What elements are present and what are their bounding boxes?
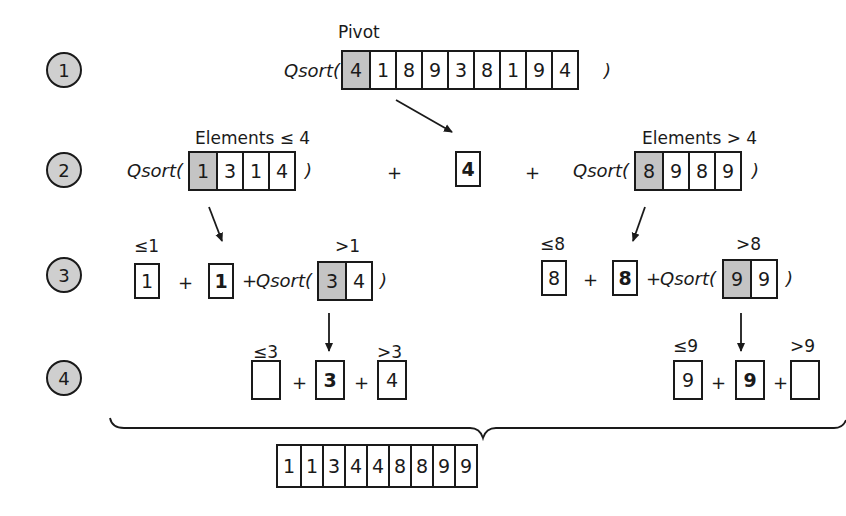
row1-array: 4 1 8 9 3 8 1 9 4 [341, 50, 579, 90]
elements-gt-label: Elements > 4 [642, 128, 757, 148]
row2-left-array: 1 3 1 4 [188, 151, 296, 191]
result-cell: 1 [278, 446, 300, 486]
sorted-result-array: 1 1 3 4 4 8 8 9 9 [276, 444, 478, 488]
close-paren: ) [786, 268, 793, 289]
array-cell: 8 [395, 52, 421, 88]
plus-sign: + [292, 372, 307, 393]
gt-box-empty [790, 360, 820, 400]
array-cell: 4 [345, 263, 371, 299]
result-cell: 1 [300, 446, 322, 486]
le-box-empty [251, 360, 281, 400]
plus-sign: + [583, 269, 598, 290]
qsort-call-label: Qsort( [284, 60, 340, 81]
arrow-row2-left-to-pivot [209, 207, 222, 241]
result-cell: 8 [388, 446, 410, 486]
array-cell: 4 [551, 52, 577, 88]
array-cell: 1 [242, 153, 268, 189]
qsort-call-label: Qsort( [256, 270, 312, 291]
array-cell-pivot: 3 [319, 263, 345, 299]
qsort-call-label: Qsort( [573, 160, 629, 181]
arrow-row1-to-pivot [396, 100, 452, 132]
close-paren: ) [752, 160, 759, 181]
array-cell: 9 [421, 52, 447, 88]
plus-sign: + [354, 372, 369, 393]
pivot-label: Pivot [338, 22, 380, 42]
array-cell: 3 [447, 52, 473, 88]
plus-sign: + [773, 372, 788, 393]
close-paren: ) [604, 60, 611, 81]
array-cell: 1 [369, 52, 395, 88]
pivot-box: 3 [315, 360, 345, 400]
le-label: ≤1 [134, 236, 159, 256]
step-3-icon: 3 [46, 257, 82, 293]
plus-sign: + [242, 270, 257, 291]
array-cell: 3 [216, 153, 242, 189]
array-cell: 8 [688, 153, 714, 189]
step-1-icon: 1 [46, 52, 82, 88]
plus-sign: + [646, 268, 661, 289]
le-label: ≤8 [540, 234, 565, 254]
le-box: 8 [541, 260, 567, 296]
close-paren: ) [305, 160, 312, 181]
array-cell-pivot: 1 [190, 153, 216, 189]
plus-sign: + [711, 372, 726, 393]
result-cell: 3 [322, 446, 344, 486]
array-cell: 1 [499, 52, 525, 88]
gt-label: >3 [377, 342, 402, 362]
step-4-icon: 4 [46, 360, 82, 396]
plus-sign: + [387, 162, 402, 183]
row2-right-array: 8 9 8 9 [634, 151, 742, 191]
gt-box: 4 [377, 360, 407, 400]
qsort-call-label: Qsort( [127, 160, 183, 181]
step-number: 4 [58, 368, 69, 389]
array-cell: 9 [662, 153, 688, 189]
gt-label: >9 [790, 336, 815, 356]
gt-label: >8 [736, 234, 761, 254]
pivot-box: 9 [735, 360, 765, 400]
array-cell-pivot: 9 [724, 261, 750, 297]
array-cell: 9 [714, 153, 740, 189]
array-cell: 4 [268, 153, 294, 189]
pivot-box: 8 [612, 260, 638, 296]
step-number: 3 [58, 265, 69, 286]
pivot-box: 1 [208, 263, 234, 299]
elements-le-label: Elements ≤ 4 [195, 128, 310, 148]
row3-right-array: 9 9 [722, 259, 778, 299]
le-label: ≤9 [673, 336, 698, 356]
qsort-call-label: Qsort( [660, 268, 716, 289]
result-cell: 9 [432, 446, 454, 486]
array-cell: 9 [750, 261, 776, 297]
arrow-row2-right-to-pivot [633, 207, 645, 241]
array-cell-pivot: 4 [343, 52, 369, 88]
le-box: 1 [134, 263, 160, 299]
result-cell: 9 [454, 446, 476, 486]
plus-sign: + [178, 272, 193, 293]
step-2-icon: 2 [46, 152, 82, 188]
close-paren: ) [380, 270, 387, 291]
le-label: ≤3 [253, 342, 278, 362]
pivot-box: 4 [455, 151, 481, 187]
result-cell: 4 [366, 446, 388, 486]
merge-brace [110, 418, 846, 438]
step-number: 1 [58, 60, 69, 81]
gt-label: >1 [335, 236, 360, 256]
array-cell: 9 [525, 52, 551, 88]
result-cell: 4 [344, 446, 366, 486]
array-cell: 8 [473, 52, 499, 88]
result-cell: 8 [410, 446, 432, 486]
plus-sign: + [525, 162, 540, 183]
row3-left-array: 3 4 [317, 261, 373, 301]
step-number: 2 [58, 160, 69, 181]
array-cell-pivot: 8 [636, 153, 662, 189]
le-box: 9 [673, 360, 703, 400]
